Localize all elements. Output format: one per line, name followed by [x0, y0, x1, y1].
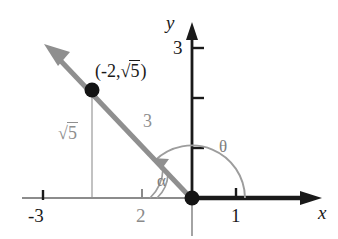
point-label-close-paren: ): [140, 61, 146, 81]
sqrt-radical-point: √5: [121, 60, 141, 80]
coordinate-plane-figure: y x 3 -3 2 1 (-2,√5) 3 √5 θ α: [0, 0, 338, 239]
ray-length-label: 3: [143, 112, 152, 130]
y-tick-label-3: 3: [173, 38, 183, 57]
point-label-x-part: (-2,: [95, 61, 121, 81]
point-coordinate-label: (-2,√5): [95, 60, 146, 80]
point-label-radicand: 5: [129, 60, 140, 80]
filled-circle-icon-origin: [185, 191, 200, 206]
sqrt-radical-height: √5: [58, 122, 78, 142]
arrow-up-left-icon: [44, 44, 70, 66]
filled-circle-icon-point: [85, 83, 100, 98]
alpha-angle-label: α: [157, 172, 166, 189]
x-tick-label-2: 2: [136, 206, 146, 225]
x-axis-label: x: [318, 203, 326, 222]
x-tick-label-minus3: -3: [28, 206, 44, 225]
y-axis-label: y: [166, 13, 174, 32]
theta-angle-label: θ: [219, 138, 227, 155]
figure-canvas: [0, 0, 338, 239]
arrow-up-icon: [186, 22, 198, 40]
x-tick-label-1: 1: [231, 206, 241, 225]
height-sqrt5-label: √5: [58, 122, 78, 142]
height-radicand: 5: [67, 122, 78, 142]
